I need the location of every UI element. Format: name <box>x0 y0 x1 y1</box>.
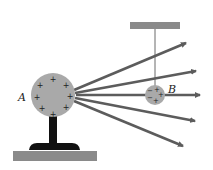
svg-text:+: + <box>50 75 57 84</box>
insulating-stand <box>29 116 80 150</box>
label-b: B <box>167 83 176 96</box>
field-lines <box>74 43 200 146</box>
svg-text:+: + <box>63 103 70 112</box>
label-a: A <box>17 91 26 104</box>
svg-text:+: + <box>153 97 159 105</box>
electrostatics-diagram: + + + + + + + + A − + − + + B <box>0 0 213 170</box>
sphere-a: + + + + + + + + <box>31 73 75 119</box>
svg-text:+: + <box>63 81 70 90</box>
svg-text:+: + <box>37 81 44 90</box>
support-bar <box>130 22 180 29</box>
platform <box>13 151 97 161</box>
svg-text:+: + <box>67 92 74 101</box>
svg-text:+: + <box>158 91 164 99</box>
svg-text:+: + <box>39 104 46 113</box>
sphere-b: − + − + + <box>145 85 165 105</box>
svg-text:+: + <box>34 93 41 102</box>
svg-text:+: + <box>50 110 57 119</box>
